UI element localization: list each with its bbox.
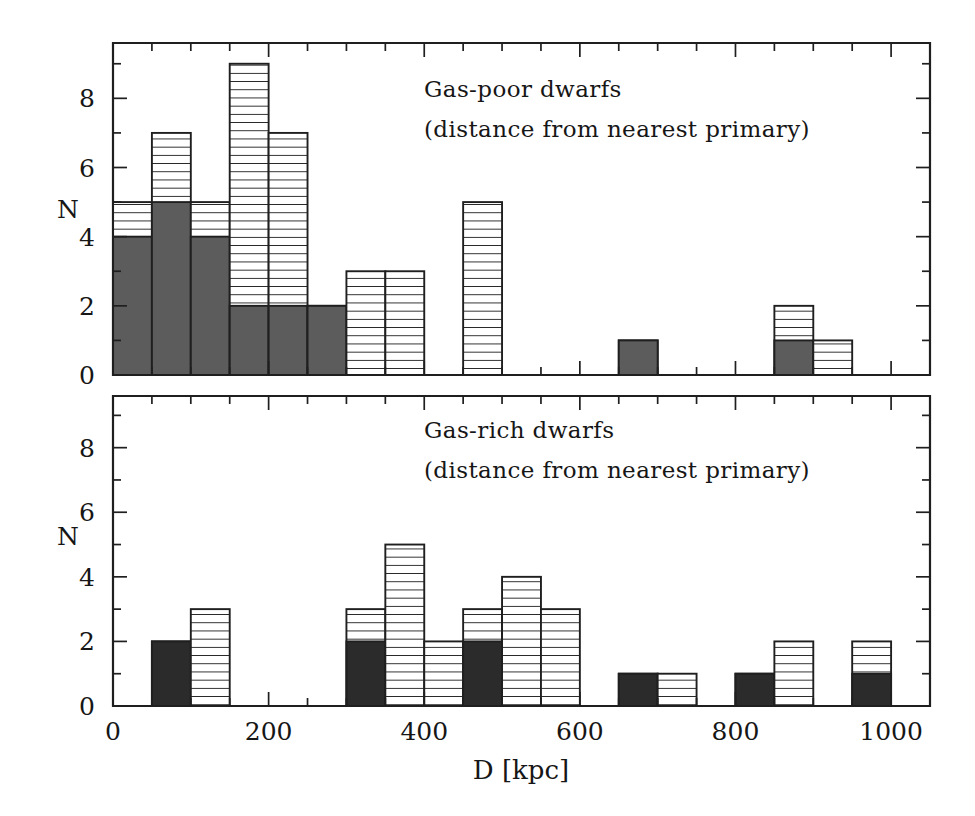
bar-subset [191, 237, 230, 375]
y-tick-label: 2 [79, 627, 95, 656]
bar-subset [152, 641, 191, 706]
top-annotation-line2: (distance from nearest primary) [424, 116, 810, 142]
bar-subset [269, 306, 308, 375]
figure-canvas: Gas-poor dwarfs (distance from nearest p… [0, 0, 975, 816]
y-tick-label: 8 [79, 434, 95, 463]
x-tick-label: 600 [556, 717, 604, 746]
histogram-figure: Gas-poor dwarfs (distance from nearest p… [0, 0, 975, 816]
bottom-y-axis-title: N [57, 522, 79, 551]
y-tick-label: 6 [79, 498, 95, 527]
bar-total [385, 545, 424, 706]
bar-subset [619, 340, 658, 375]
bar-total [658, 674, 697, 706]
bar-total [191, 609, 230, 706]
x-tick-label: 1000 [859, 717, 923, 746]
bar-total [502, 577, 541, 706]
y-tick-label: 0 [79, 361, 95, 390]
y-tick-label: 8 [79, 84, 95, 113]
top-y-axis-title: N [57, 195, 79, 224]
bar-subset [230, 306, 269, 375]
bar-subset [308, 306, 347, 375]
y-tick-label: 4 [79, 563, 95, 592]
bar-subset [346, 641, 385, 706]
bar-total [463, 202, 502, 375]
plot-root [113, 43, 930, 706]
bar-subset [152, 202, 191, 375]
bottom-annotation-line2: (distance from nearest primary) [424, 457, 810, 483]
x-tick-label: 0 [105, 717, 121, 746]
y-tick-label: 4 [79, 223, 95, 252]
bar-subset [463, 641, 502, 706]
y-tick-label: 0 [79, 692, 95, 721]
top-annotation-line1: Gas-poor dwarfs [424, 76, 622, 102]
bar-total [385, 271, 424, 375]
x-axis-title: D [kpc] [473, 755, 569, 785]
bar-total [813, 340, 852, 375]
bar-subset [619, 674, 658, 706]
bar-total [541, 609, 580, 706]
bar-subset [735, 674, 774, 706]
bars-group [152, 545, 891, 706]
bar-total [424, 641, 463, 706]
bar-total [346, 271, 385, 375]
x-tick-label: 800 [712, 717, 760, 746]
bars-group [113, 64, 852, 375]
bar-subset [774, 340, 813, 375]
bottom-annotation-line1: Gas-rich dwarfs [424, 417, 614, 443]
bar-total [774, 641, 813, 706]
x-tick-label: 400 [400, 717, 448, 746]
y-tick-label: 2 [79, 292, 95, 321]
top-panel-annotation: Gas-poor dwarfs (distance from nearest p… [424, 76, 810, 142]
bar-subset [852, 674, 891, 706]
x-tick-label: 200 [245, 717, 293, 746]
y-tick-label: 6 [79, 154, 95, 183]
bottom-panel-annotation: Gas-rich dwarfs (distance from nearest p… [424, 417, 810, 483]
